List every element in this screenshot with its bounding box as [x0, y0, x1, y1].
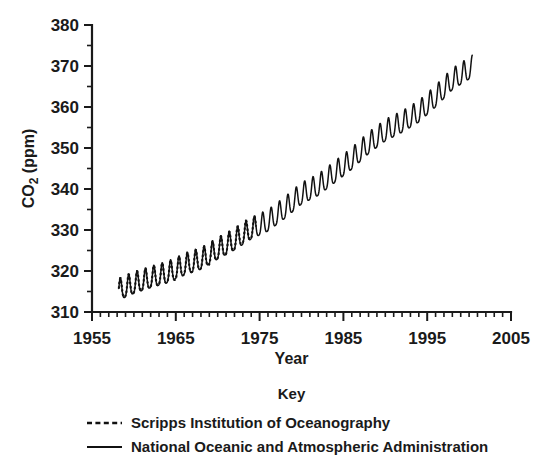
axes-group — [84, 25, 511, 321]
x-axis-tick-label: 2005 — [492, 329, 530, 348]
y-axis-tick-label: 340 — [51, 180, 79, 199]
y-axis-tick-label: 330 — [51, 221, 79, 240]
legend-label-1: National Oceanic and Atmospheric Adminis… — [131, 438, 488, 455]
x-axis-tick-label: 1975 — [241, 329, 279, 348]
y-axis-title: CO2 (ppm) — [20, 129, 41, 209]
legend-title: Key — [278, 385, 306, 402]
y-axis-tick-label: 380 — [51, 16, 79, 35]
data-series-group — [119, 55, 472, 297]
x-axis-tick-label: 1955 — [73, 329, 111, 348]
y-axis-tick-label: 360 — [51, 98, 79, 117]
x-axis-tick-label: 1965 — [157, 329, 195, 348]
y-axis-tick-label: 320 — [51, 262, 79, 281]
co2-chart-figure: 3103203303403503603703801955196519751985… — [0, 0, 552, 468]
data-series-line-1 — [119, 55, 472, 297]
x-axis-tick-label: 1985 — [324, 329, 362, 348]
x-axis-tick-label: 1995 — [408, 329, 446, 348]
chart-canvas: 3103203303403503603703801955196519751985… — [0, 0, 552, 468]
legend-label-0: Scripps Institution of Oceanography — [131, 414, 391, 431]
axis-labels-group: 3103203303403503603703801955196519751985… — [20, 16, 530, 367]
x-axis-title: Year — [275, 350, 309, 367]
legend-group: KeyScripps Institution of OceanographyNa… — [87, 385, 488, 455]
y-axis-tick-label: 370 — [51, 57, 79, 76]
y-axis-tick-label: 350 — [51, 139, 79, 158]
y-axis-tick-label: 310 — [51, 303, 79, 322]
